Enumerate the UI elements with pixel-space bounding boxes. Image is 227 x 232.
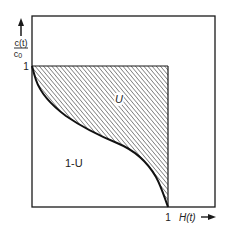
x-axis-tick-1: 1 [165, 212, 171, 223]
x-axis-arrow-icon [208, 214, 216, 220]
y-axis-arrow-icon [18, 18, 24, 26]
x-axis-label: H(t) [179, 212, 196, 223]
y-axis-label-denominator: c0 [14, 49, 23, 59]
y-axis-tick-1: 1 [23, 61, 29, 72]
region-label-1-minus-u: 1-U [65, 157, 83, 169]
diagram-canvas: U 1-U c(t) c0 1 1 H(t) [0, 0, 227, 232]
region-label-u: U [115, 93, 123, 105]
y-axis-label-numerator: c(t) [15, 38, 28, 48]
